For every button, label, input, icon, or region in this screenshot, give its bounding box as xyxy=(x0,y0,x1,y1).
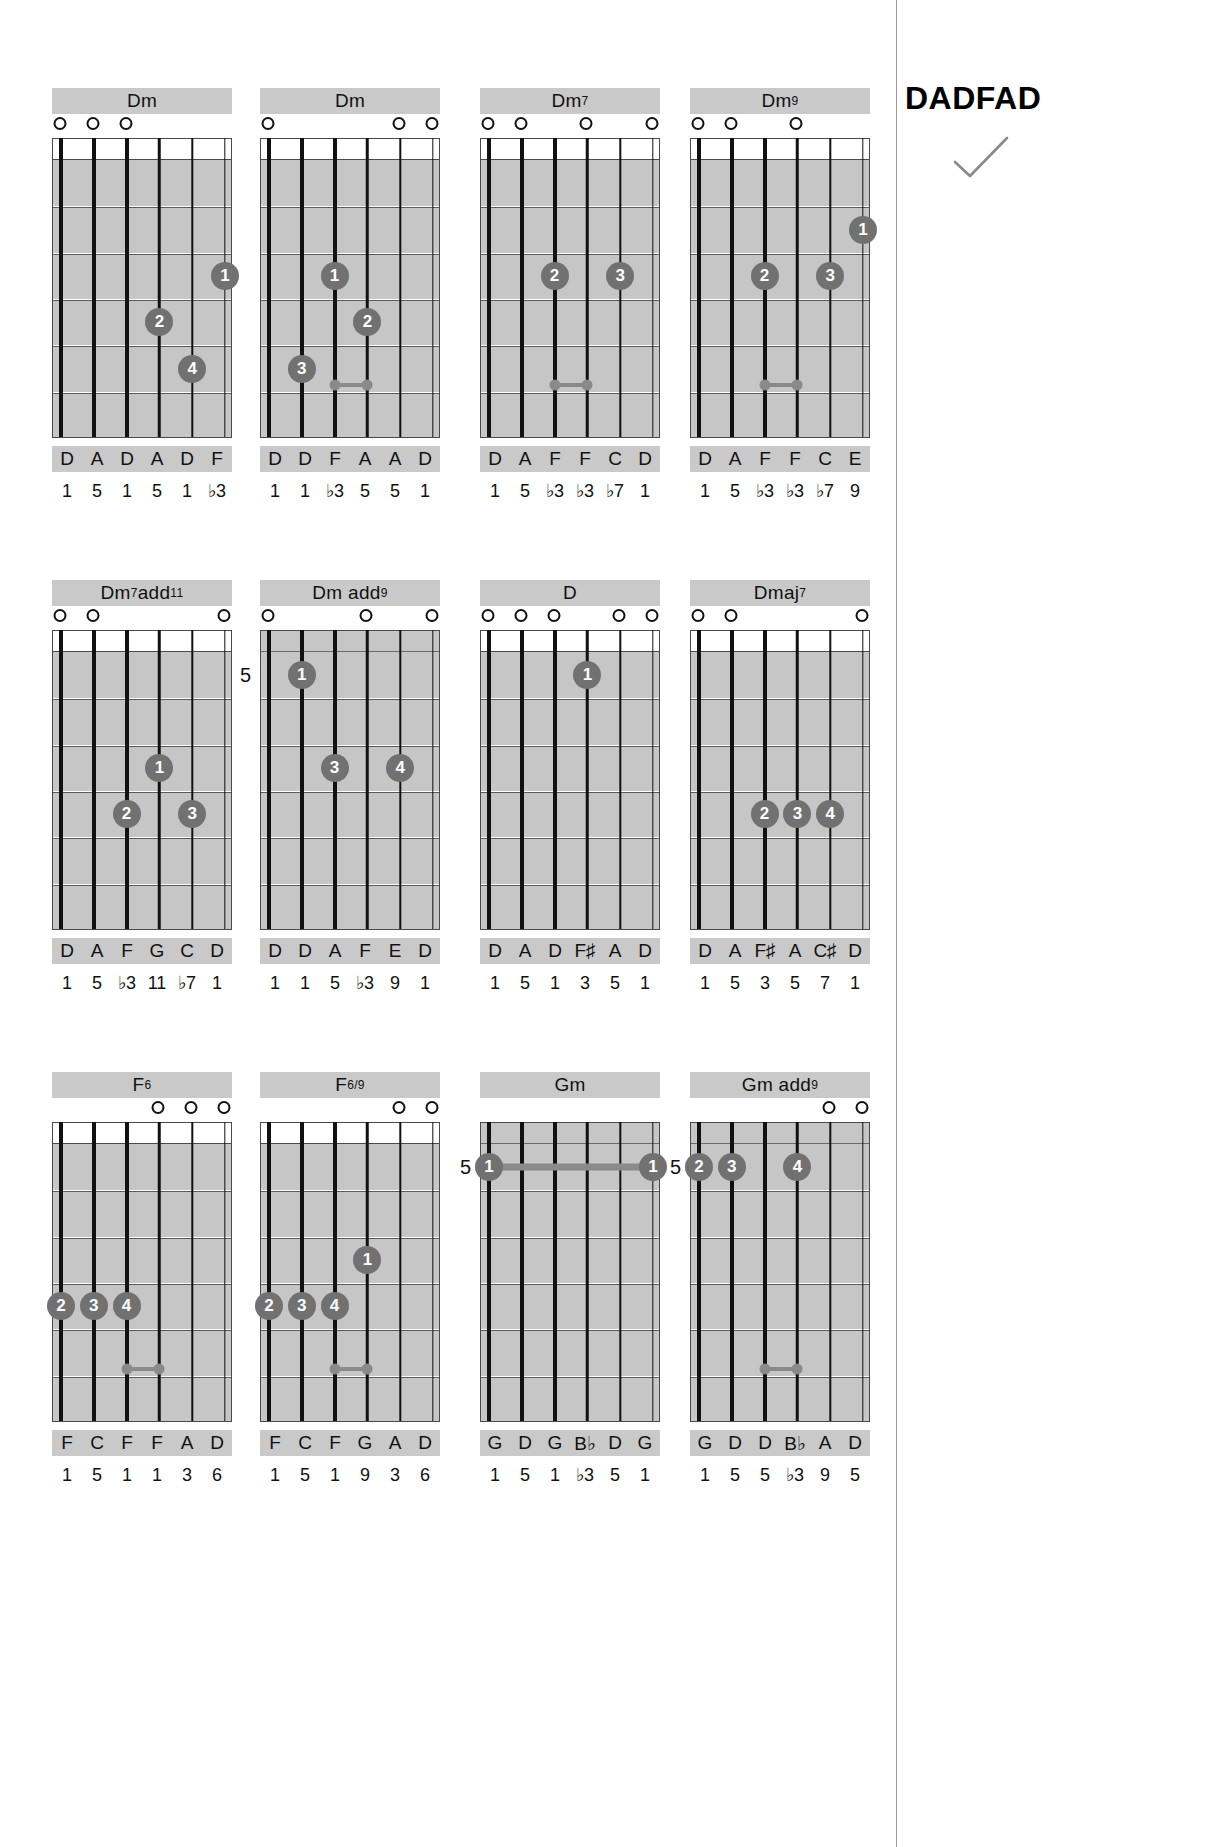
finger-dot[interactable]: 3 xyxy=(288,355,316,383)
checkmark-icon xyxy=(953,136,1205,184)
chord-card[interactable]: Gm115GDGB♭DG151♭351 xyxy=(480,1072,660,1488)
fret-line xyxy=(53,345,231,347)
fret-line xyxy=(691,299,869,301)
finger-dot[interactable]: 3 xyxy=(80,1292,108,1320)
note-name: D xyxy=(112,448,142,470)
finger-dot[interactable]: 1 xyxy=(145,754,173,782)
chord-card[interactable]: Gm add92345GDDB♭AD155♭395 xyxy=(690,1072,870,1488)
finger-dot[interactable]: 1 xyxy=(849,216,877,244)
chord-card[interactable]: F6/91234FCFGAD151936 xyxy=(260,1072,440,1488)
chord-card[interactable]: D1DADF♯AD151351 xyxy=(480,580,660,996)
string-line xyxy=(59,138,63,437)
note-name: C xyxy=(290,1432,320,1454)
string-line xyxy=(829,1122,830,1421)
finger-dot[interactable]: 3 xyxy=(321,754,349,782)
chord-card[interactable]: Dm add91345DDAFED115♭391 xyxy=(260,580,440,996)
finger-dot[interactable]: 1 xyxy=(353,1246,381,1274)
finger-dot[interactable]: 4 xyxy=(783,1153,811,1181)
interval-value: ♭7 xyxy=(600,480,630,502)
chord-card[interactable]: Dm723DAFFCD15♭3♭3♭71 xyxy=(480,88,660,504)
fretboard[interactable]: 23 xyxy=(480,138,660,438)
finger-dot[interactable]: 2 xyxy=(751,262,779,290)
finger-dot[interactable]: 1 xyxy=(573,661,601,689)
finger-dot[interactable]: 3 xyxy=(288,1292,316,1320)
damped-dot xyxy=(792,1363,803,1374)
chord-card[interactable]: Dmaj7234DAF♯AC♯D153571 xyxy=(690,580,870,996)
finger-dot[interactable]: 2 xyxy=(145,308,173,336)
open-string-row xyxy=(260,606,440,630)
string-line xyxy=(300,138,304,437)
interval-value: 5 xyxy=(510,973,540,994)
string-line xyxy=(191,138,192,437)
fretboard[interactable]: 123 xyxy=(52,630,232,930)
nut xyxy=(691,630,869,652)
string-line xyxy=(796,138,799,437)
fretboard[interactable]: 234 xyxy=(52,1122,232,1422)
fretboard[interactable]: 1234 xyxy=(260,1122,440,1422)
finger-dot[interactable]: 1 xyxy=(211,262,239,290)
chord-card[interactable]: Dm9123DAFFCE15♭3♭3♭79 xyxy=(690,88,870,504)
finger-dot[interactable]: 3 xyxy=(606,262,634,290)
note-name: A xyxy=(600,940,630,962)
finger-dot[interactable]: 4 xyxy=(178,355,206,383)
open-string-icon xyxy=(646,609,659,622)
note-name: D xyxy=(290,448,320,470)
note-name: D xyxy=(840,1432,870,1454)
fretboard[interactable]: 234 xyxy=(690,630,870,930)
damped-dot xyxy=(329,379,340,390)
fret-line xyxy=(261,698,439,700)
note-name: D xyxy=(720,1432,750,1454)
finger-dot[interactable]: 2 xyxy=(113,800,141,828)
interval-value: 1 xyxy=(202,973,232,994)
fretboard[interactable]: 123 xyxy=(690,138,870,438)
finger-dot[interactable]: 1 xyxy=(639,1153,667,1181)
finger-dot[interactable]: 3 xyxy=(783,800,811,828)
finger-dot[interactable]: 3 xyxy=(718,1153,746,1181)
finger-dot[interactable]: 1 xyxy=(321,262,349,290)
finger-dot[interactable]: 2 xyxy=(255,1292,283,1320)
fretboard[interactable]: 124 xyxy=(52,138,232,438)
note-name: G xyxy=(540,1432,570,1454)
chord-card[interactable]: Dm7add11123DAFGCD15♭311♭71 xyxy=(52,580,232,996)
open-string-icon xyxy=(724,117,737,130)
finger-dot[interactable]: 2 xyxy=(541,262,569,290)
fretboard[interactable]: 234 xyxy=(690,1122,870,1422)
open-string-row xyxy=(480,606,660,630)
fretboard-wrap: 124 xyxy=(52,138,232,438)
chord-card[interactable]: Dm123DDFAAD11♭3551 xyxy=(260,88,440,504)
chord-card[interactable]: Dm124DADADF15151♭3 xyxy=(52,88,232,504)
note-name: D xyxy=(480,448,510,470)
finger-dot[interactable]: 2 xyxy=(47,1292,75,1320)
nut xyxy=(481,138,659,160)
finger-dot[interactable]: 4 xyxy=(816,800,844,828)
finger-dot[interactable]: 4 xyxy=(321,1292,349,1320)
finger-dot[interactable]: 3 xyxy=(178,800,206,828)
note-name: F xyxy=(142,1432,172,1454)
note-name: A xyxy=(142,448,172,470)
finger-dot[interactable]: 4 xyxy=(386,754,414,782)
finger-dot[interactable]: 2 xyxy=(353,308,381,336)
finger-dot[interactable]: 4 xyxy=(113,1292,141,1320)
finger-dot[interactable]: 1 xyxy=(288,661,316,689)
note-names-row: DADF♯AD xyxy=(480,938,660,964)
fretboard[interactable]: 11 xyxy=(480,1122,660,1422)
finger-dot[interactable]: 2 xyxy=(751,800,779,828)
open-string-icon xyxy=(86,609,99,622)
fret-line xyxy=(481,392,659,394)
string-line xyxy=(366,138,369,437)
open-string-row xyxy=(690,606,870,630)
finger-dot[interactable]: 3 xyxy=(816,262,844,290)
open-string-row xyxy=(52,606,232,630)
nut xyxy=(53,1122,231,1144)
chord-card[interactable]: F6234FCFFAD151136 xyxy=(52,1072,232,1488)
fretboard[interactable]: 134 xyxy=(260,630,440,930)
open-string-icon xyxy=(185,1101,198,1114)
fretboard[interactable]: 123 xyxy=(260,138,440,438)
damped-dot xyxy=(792,379,803,390)
fret-line xyxy=(481,345,659,347)
damped-dot xyxy=(121,1363,132,1374)
note-name: G xyxy=(480,1432,510,1454)
note-names-row: GDDB♭AD xyxy=(690,1430,870,1456)
fretboard[interactable]: 1 xyxy=(480,630,660,930)
interval-value: 1 xyxy=(52,1465,82,1486)
